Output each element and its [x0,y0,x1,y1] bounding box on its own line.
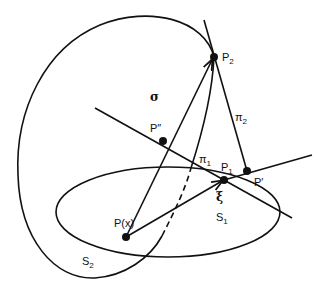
geometry-figure [0,0,329,294]
point-p-prime [243,167,251,175]
label-p-prime: P′ [254,177,263,188]
point-p-double-prime [159,137,167,145]
line-pi2 [204,20,247,171]
label-pi2: π2 [235,112,247,126]
label-pi1: π1 [199,154,211,168]
diagram-canvas: P2 P1 P′ P″ P(x) σ ξ π1 π2 S1 S2 [0,0,329,294]
label-p-x: P(x) [114,218,134,229]
point-p1 [220,176,228,184]
point-p-x [122,233,130,241]
label-sigma: σ [150,91,159,103]
label-xi: ξ [216,191,223,203]
vector-sigma [126,60,212,237]
point-p2 [210,53,218,61]
label-p2: P2 [222,52,234,66]
label-s1: S1 [216,212,228,226]
line-pi1 [95,108,292,218]
label-s2: S2 [82,256,94,270]
label-p-double-prime: P″ [150,123,161,134]
line-tangent-p1 [224,155,312,180]
surface-s2-curve [18,16,214,278]
surface-s2-front [191,57,214,168]
label-p1: P1 [221,162,233,176]
